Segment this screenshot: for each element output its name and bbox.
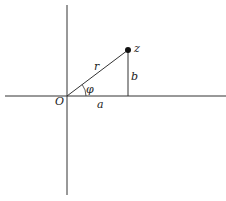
polar-diagram: O z r φ a b: [0, 0, 226, 201]
radius-label: r: [94, 60, 100, 73]
radius-line: [67, 50, 128, 96]
point-z: [125, 47, 131, 53]
point-label: z: [133, 42, 140, 55]
origin-label: O: [55, 95, 64, 108]
angle-label: φ: [86, 83, 94, 96]
real-part-label: a: [97, 98, 104, 111]
imaginary-part-label: b: [131, 70, 138, 83]
